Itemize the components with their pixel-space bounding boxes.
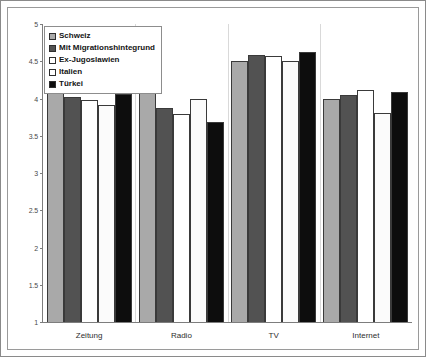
y-axis-tick-label: 3 (34, 170, 38, 177)
bar (190, 99, 207, 323)
legend-item: Mit Migrationshintegrund (49, 42, 155, 54)
y-axis-tick-label: 2 (34, 244, 38, 251)
legend-item: Schweiz (49, 30, 155, 42)
y-axis-tick-label: 5 (34, 21, 38, 28)
bar (323, 99, 340, 323)
legend-item-label: Türkei (59, 79, 83, 89)
bar (357, 90, 374, 322)
x-axis-category-label: Internet (352, 331, 379, 340)
x-axis-category-label: Radio (171, 331, 192, 340)
bar (282, 61, 299, 322)
bar (265, 56, 282, 322)
bar (391, 92, 408, 322)
legend-item-label: Italien (59, 67, 82, 77)
legend-swatch-icon (49, 57, 56, 64)
bar-group (320, 24, 412, 322)
bar (374, 113, 391, 322)
chart-page: 54.543.532.521.51 ZeitungRadioTVInternet… (0, 0, 426, 357)
y-axis-tick-label: 1.5 (29, 281, 38, 288)
bar (340, 95, 357, 322)
bar (98, 105, 115, 322)
bar (81, 100, 98, 322)
bar (115, 94, 132, 322)
bar (299, 52, 316, 322)
x-axis-category-label: Zeitung (76, 331, 103, 340)
y-axis-tick-label: 3.5 (29, 132, 38, 139)
bar (139, 78, 156, 322)
bar (231, 61, 248, 322)
legend-item: Türkei (49, 78, 155, 90)
legend-item-label: Mit Migrationshintegrund (59, 43, 155, 53)
legend-swatch-icon (49, 81, 56, 88)
bar (47, 90, 64, 322)
bar-group (228, 24, 320, 322)
y-axis-tick-mark (40, 322, 43, 323)
bar (248, 55, 265, 322)
bar (156, 108, 173, 322)
y-axis-tick-label: 1 (34, 319, 38, 326)
legend-item: Italien (49, 66, 155, 78)
y-axis-tick-label: 4 (34, 95, 38, 102)
chart-legend: SchweizMit MigrationshintegrundEx-Jugosl… (44, 26, 162, 94)
legend-item-label: Schweiz (59, 31, 91, 41)
legend-swatch-icon (49, 69, 56, 76)
bar (64, 97, 81, 322)
legend-swatch-icon (49, 45, 56, 52)
bar (207, 122, 224, 322)
chart-inner-frame: 54.543.532.521.51 ZeitungRadioTVInternet… (7, 7, 419, 350)
legend-item: Ex-Jugoslawien (49, 54, 155, 66)
bar (173, 114, 190, 322)
x-axis-category-label: TV (269, 331, 279, 340)
y-axis-tick-label: 2.5 (29, 207, 38, 214)
legend-swatch-icon (49, 33, 56, 40)
y-axis-tick-label: 4.5 (29, 58, 38, 65)
legend-item-label: Ex-Jugoslawien (59, 55, 119, 65)
